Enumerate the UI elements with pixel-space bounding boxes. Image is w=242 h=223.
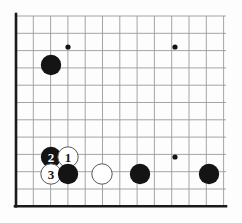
stone-black-bottom-d[interactable] (130, 164, 150, 184)
stone-black-bottom-e[interactable] (199, 164, 219, 184)
white-stone (92, 164, 112, 184)
stone-black-bottom-b[interactable] (58, 164, 78, 184)
stone-move-number-3: 3 (48, 167, 55, 182)
stone-move-number-2: 2 (48, 150, 55, 165)
star-point-lower-right (172, 154, 177, 159)
black-stone (58, 164, 78, 184)
star-point-upper-left (65, 44, 70, 49)
go-board-canvas[interactable]: 213 (0, 0, 242, 223)
stone-move-number-1: 1 (65, 150, 72, 165)
black-stone (199, 164, 219, 184)
black-stone (130, 164, 150, 184)
stone-white-bottom-c[interactable] (92, 164, 112, 184)
go-board-diagram: 213 (0, 0, 242, 223)
black-stone (41, 55, 61, 75)
stone-black-corner-upper-left[interactable] (41, 55, 61, 75)
star-point-upper-right (172, 44, 177, 49)
